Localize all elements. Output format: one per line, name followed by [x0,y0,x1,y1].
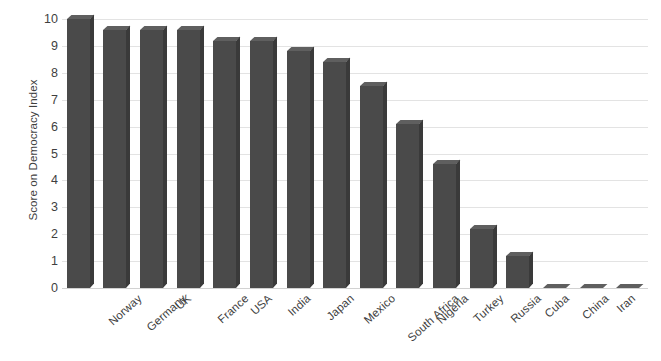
bar-front-face [433,164,456,288]
bar-front-face [470,229,493,288]
bar[interactable] [287,46,310,288]
y-axis-tick-label: 1 [30,254,58,268]
y-axis-tick-label: 10 [30,12,58,26]
bars-layer [62,19,648,288]
y-axis-tick-label: 3 [30,200,58,214]
x-axis-tick-label: France [215,292,250,325]
bar[interactable] [250,36,273,288]
bar-top-face [543,284,570,288]
bar[interactable] [103,25,126,288]
y-axis-tick-label: 9 [30,39,58,53]
bar-side-face [383,82,387,288]
x-axis-tick-label: Norway [106,292,144,328]
bar[interactable] [433,159,456,288]
bar-side-face [493,224,497,288]
bar-side-face [90,15,94,288]
y-axis-tick-label: 5 [30,147,58,161]
bar-side-face [310,47,314,288]
bar-front-face [360,86,383,288]
bar-front-face [250,41,273,288]
democracy-index-bar-chart: Score on Democracy Index 012345678910 No… [0,0,661,361]
x-axis-tick-label: Russia [508,292,543,325]
bar-front-face [140,30,163,288]
bar-front-face [323,62,346,288]
bar[interactable] [543,283,566,288]
bar-top-face [580,284,607,288]
y-axis-tick-label: 0 [30,281,58,295]
y-axis-tick-label: 6 [30,120,58,134]
x-axis-tick-label: Mexico [362,292,398,326]
bar-side-face [163,25,167,288]
bar[interactable] [396,119,419,288]
x-axis-tick-labels: NorwayGermanyUKFranceUSAIndiaJapanMexico… [62,292,648,361]
bar[interactable] [140,25,163,288]
bar-front-face [177,30,200,288]
x-axis-tick-label: India [286,292,313,318]
bar-side-face [200,25,204,288]
y-axis-tick-label: 7 [30,93,58,107]
y-axis-tick-label: 8 [30,66,58,80]
bar-front-face [287,51,310,288]
gridline [62,288,648,289]
bar[interactable] [580,283,603,288]
x-axis-tick-label: Turkey [471,292,506,325]
bar-side-face [273,36,277,288]
bar[interactable] [616,283,639,288]
bar-front-face [67,19,90,288]
x-axis-tick-label: Japan [324,292,356,322]
bar[interactable] [213,36,236,288]
bar-top-face [616,284,643,288]
x-axis-tick-label: USA [249,292,275,317]
y-axis-tick-label: 4 [30,173,58,187]
bar-side-face [529,251,533,288]
bar-side-face [236,36,240,288]
bar[interactable] [67,14,90,288]
x-axis-tick-label: China [580,292,611,322]
x-axis-tick-label: Iran [614,292,637,315]
bar[interactable] [470,224,493,288]
bar-side-face [346,58,350,288]
bar[interactable] [360,81,383,288]
bar-side-face [419,119,423,288]
y-axis-tick-labels: 012345678910 [30,19,58,288]
y-axis-tick-label: 2 [30,227,58,241]
bar-front-face [396,124,419,288]
bar[interactable] [323,57,346,288]
bar-side-face [126,25,130,288]
bar-front-face [213,41,236,288]
bar-front-face [103,30,126,288]
bar-side-face [456,160,460,288]
bar[interactable] [506,251,529,288]
bar-front-face [506,256,529,288]
bar[interactable] [177,25,200,288]
x-axis-tick-label: Cuba [543,292,572,320]
